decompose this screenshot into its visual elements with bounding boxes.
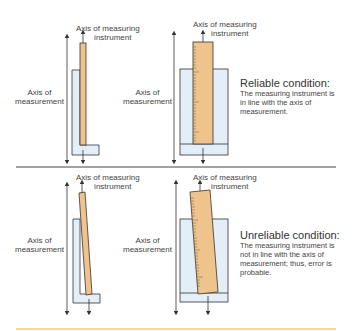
unreliable-wide-setup: [176, 182, 228, 313]
unreliable-heading: Unreliable condition:: [240, 229, 340, 241]
diagram-graphics: [0, 0, 353, 331]
measurement-axis-label: Axis ofmeasurement: [123, 88, 172, 106]
reliable-heading: Reliable condition:: [240, 77, 330, 89]
unreliable-thin-setup: [67, 182, 100, 313]
measurement-axis-label: Axis ofmeasurement: [15, 236, 64, 254]
reliable-wide-setup: [174, 32, 228, 162]
instrument-axis-label: Axis of measuringinstrument: [76, 173, 140, 191]
reliable-description: The measuring instrument is in line with…: [240, 89, 340, 116]
bottom-rule: [16, 328, 336, 330]
instrument-axis-label: Axis of measuringinstrument: [76, 24, 140, 42]
unreliable-description: The measuring instrument is not in line …: [240, 241, 340, 277]
instrument-axis-label: Axis of measuringinstrument: [193, 20, 257, 38]
reliable-thin-setup: [67, 32, 99, 162]
measurement-axis-label: Axis ofmeasurement: [15, 88, 64, 106]
measurement-axis-label: Axis ofmeasurement: [123, 236, 172, 254]
instrument-axis-label: Axis of measuringinstrument: [193, 173, 257, 191]
